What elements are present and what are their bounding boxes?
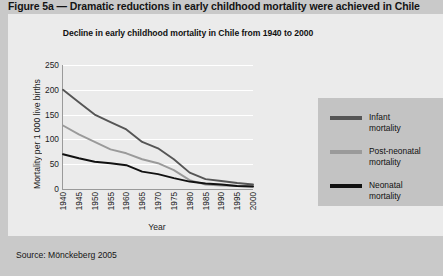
series-lines — [63, 65, 253, 189]
legend-item-label: Post-neonatalmortality — [369, 146, 421, 168]
y-axis-tick-label: 250 — [45, 60, 59, 70]
y-axis-tick-label: 150 — [45, 110, 59, 120]
legend-item-label: Neonatalmortality — [369, 180, 403, 202]
x-axis-tick-label: 1970 — [154, 192, 163, 210]
legend-swatch — [330, 150, 362, 154]
chart-panel: Decline in early childhood mortality in … — [8, 14, 443, 236]
series-line — [63, 90, 253, 185]
legend-item[interactable]: Infantmortality — [330, 112, 439, 134]
figure-container: Figure 5a — Dramatic reductions in early… — [0, 0, 443, 276]
x-axis-tick-label: 1950 — [90, 192, 99, 210]
x-axis-tick-label: 1990 — [217, 192, 226, 210]
x-axis-label: Year — [62, 222, 252, 232]
x-axis-tick-label: 1980 — [185, 192, 194, 210]
y-axis-tick-label: 200 — [45, 85, 59, 95]
x-axis-tick-label: 1960 — [122, 192, 131, 210]
source-bar: Source: Mönckeberg 2005 — [0, 236, 443, 276]
x-axis-tick-label: 1955 — [106, 192, 115, 210]
plot-area: 050100150200250 194019451950195519601965… — [62, 65, 253, 190]
figure-caption: Figure 5a — Dramatic reductions in early… — [8, 0, 439, 13]
x-axis-tick-label: 1965 — [138, 192, 147, 210]
chart-legend: InfantmortalityPost-neonatalmortalityNeo… — [318, 98, 443, 206]
y-axis-tick-label: 100 — [45, 134, 59, 144]
x-axis-tick-label: 1995 — [233, 192, 242, 210]
legend-item[interactable]: Post-neonatalmortality — [330, 146, 439, 168]
legend-item[interactable]: Neonatalmortality — [330, 180, 439, 202]
y-axis-label: Mortality per 1 000 live births — [32, 65, 42, 189]
x-axis-tick-label: 1945 — [74, 192, 83, 210]
x-axis-tick-label: 1985 — [201, 192, 210, 210]
series-line — [63, 126, 253, 187]
x-axis-tick-label: 1975 — [169, 192, 178, 210]
source-citation: Source: Mönckeberg 2005 — [16, 250, 117, 260]
chart-title: Decline in early childhood mortality in … — [8, 28, 368, 38]
legend-item-label: Infantmortality — [369, 112, 401, 134]
legend-swatch — [330, 184, 362, 188]
legend-swatch — [330, 116, 362, 120]
y-axis-tick-label: 50 — [50, 159, 59, 169]
x-axis-tick-label: 1940 — [59, 192, 68, 210]
x-axis-tick-label: 2000 — [249, 192, 258, 210]
